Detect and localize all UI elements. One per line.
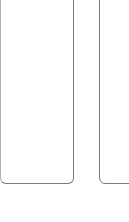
left-panel bbox=[0, 0, 74, 184]
right-panel bbox=[99, 0, 129, 184]
